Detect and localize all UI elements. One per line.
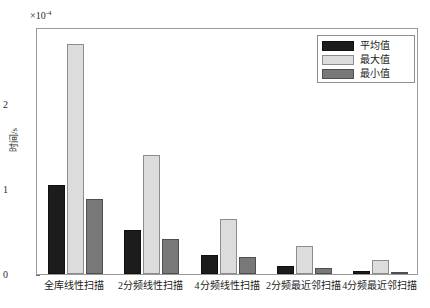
bar-4-最小值 bbox=[315, 268, 332, 274]
legend-swatch-average bbox=[322, 41, 354, 51]
legend-label-average: 平均值 bbox=[360, 40, 390, 51]
bar-3-最小值 bbox=[239, 257, 256, 274]
y-tick-label-0: 0 bbox=[0, 270, 8, 280]
y-axis-exponent-superscript: -4 bbox=[46, 9, 52, 17]
bar-2-最大值 bbox=[143, 155, 160, 274]
y-axis-title: 时间/s bbox=[9, 110, 19, 170]
bar-4-最大值 bbox=[296, 246, 313, 274]
bar-4-平均值 bbox=[277, 266, 294, 274]
bar-3-最大值 bbox=[220, 219, 237, 274]
bar-1-平均值 bbox=[48, 185, 65, 274]
y-axis-exponent-base: ×10 bbox=[30, 10, 46, 21]
y-tick-mark-0 bbox=[36, 275, 40, 276]
legend: 平均值 最大值 最小值 bbox=[317, 35, 415, 83]
legend-label-minimum: 最小值 bbox=[360, 68, 390, 79]
legend-swatch-maximum bbox=[322, 55, 354, 65]
bar-5-平均值 bbox=[353, 271, 370, 274]
legend-label-maximum: 最大值 bbox=[360, 54, 390, 65]
bar-5-最小值 bbox=[391, 272, 408, 274]
y-tick-label-1: 1 bbox=[0, 185, 8, 195]
y-axis-exponent-label: ×10-4 bbox=[30, 7, 51, 22]
legend-item-minimum: 最小值 bbox=[322, 67, 410, 80]
bar-3-平均值 bbox=[201, 255, 218, 274]
bar-2-平均值 bbox=[124, 230, 141, 274]
bar-2-最小值 bbox=[162, 239, 179, 274]
bar-5-最大值 bbox=[372, 260, 389, 274]
x-tick-label-5: 4分频最近邻扫描 bbox=[335, 280, 425, 292]
legend-swatch-minimum bbox=[322, 69, 354, 79]
bar-chart-figure: ×10-4 时间/s 0 1 2 全库线性扫描2分频线性扫描4分频线性扫描2分频… bbox=[0, 0, 430, 308]
y-tick-label-2: 2 bbox=[0, 100, 8, 110]
legend-item-maximum: 最大值 bbox=[322, 53, 410, 66]
bar-1-最小值 bbox=[86, 199, 103, 274]
bar-1-最大值 bbox=[67, 44, 84, 274]
legend-item-average: 平均值 bbox=[322, 39, 410, 52]
